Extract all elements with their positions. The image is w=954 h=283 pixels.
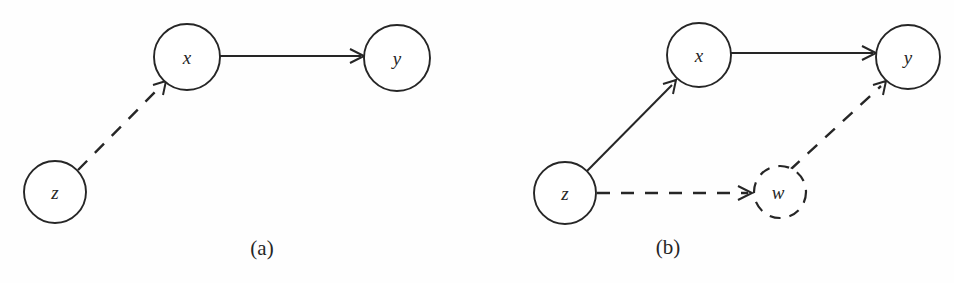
node-w-label: w [772,182,785,203]
node-z[interactable]: z [24,161,86,223]
node-w[interactable]: w [754,166,806,218]
node-z-label: z [50,182,59,203]
node-b-y[interactable]: y [876,25,940,89]
panel-b-caption: (b) [656,235,681,259]
edge-z-to-x [78,81,166,170]
panel-a: x y z (a) [24,24,430,260]
edge-b-z-to-x [587,80,676,171]
node-b-z-label: z [560,183,569,204]
panel-a-caption: (a) [250,236,273,260]
edge-x-to-y [220,49,364,63]
edge-b-z-to-x-line [587,85,672,171]
node-b-z[interactable]: z [534,162,596,224]
node-x[interactable]: x [154,24,220,90]
edge-b-w-to-y-line [790,86,881,170]
figure-root: x y z (a) [0,0,954,283]
node-y-label: y [391,48,402,69]
node-b-y-label: y [902,47,913,68]
node-x-label: x [182,47,192,68]
panel-b: w x y z (b) [534,23,940,259]
node-b-x[interactable]: x [667,23,731,87]
edge-b-z-to-w [597,186,752,200]
node-y[interactable]: y [364,25,430,91]
causal-diagram-canvas: x y z (a) [0,0,954,283]
edge-z-to-x-line [78,86,161,170]
node-b-x-label: x [694,45,704,66]
edge-b-x-to-y [731,46,876,60]
edge-b-w-to-y [790,81,886,170]
